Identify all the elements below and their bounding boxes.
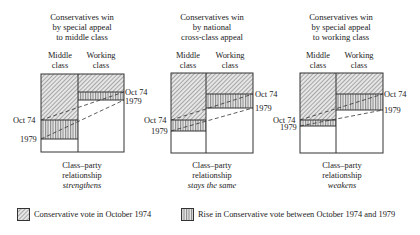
vertical-hatch-swatch-icon [181,208,194,221]
panel-1-work-1979-label: 1979 [125,97,142,106]
panel-2-work-oct74-label: Oct 74 [255,90,278,99]
caption-result: weakens [287,181,397,191]
col-label: Working [210,51,250,61]
col-label: class [81,61,121,71]
panel-1-mid-1979-label: 1979 [20,135,37,144]
col-label: Working [339,51,379,61]
panel-3-chart [300,73,383,153]
panel-3-col-middle: Middle class [298,51,338,70]
col-label: class [298,61,338,71]
caption-line: Class–party [287,161,397,171]
title-line: cross-class appeal [152,32,272,42]
panel-2-work-1979-label: 1979 [255,104,272,113]
legend-oct74-label: Conservative vote in October 1974 [34,210,151,219]
caption-line: relationship [27,171,137,181]
col-label: class [339,61,379,71]
col-label: class [40,61,80,71]
panel-3-mid-1979-label: 1979 [280,123,297,132]
panel-3-col-working: Working class [339,51,379,70]
panel-1-col-working: Working class [81,51,121,70]
panel-3-work-1979-label: 1979 [384,106,401,115]
panel-1-col-middle: Middle class [40,51,80,70]
panel-3-title: Conservatives win by special appeal to w… [281,12,401,42]
caption-line: Class–party [27,161,137,171]
panel-3-caption: Class–party relationship weakens [287,161,397,191]
title-line: by national [152,22,272,32]
diagonal-hatch-swatch-icon [17,208,30,221]
panel-2-mid-1979-label: 1979 [151,127,168,136]
panel-1-work-oct74-label: Oct 74 [125,88,148,97]
title-line: to working class [281,32,401,42]
panel-2-caption: Class–party relationship stays the same [157,161,267,191]
col-label: Middle [298,51,338,61]
col-label: Middle [40,51,80,61]
panel-2-col-working: Working class [210,51,250,70]
panel-2-title: Conservatives win by national cross-clas… [152,12,272,42]
caption-line: relationship [287,171,397,181]
col-label: Working [81,51,121,61]
panel-1-title: Conservatives win by special appeal to m… [22,12,142,42]
panel-2-col-middle: Middle class [168,51,208,70]
legend-rise-label: Rise in Conservative vote between Octobe… [198,210,395,219]
col-label: Middle [168,51,208,61]
title-line: Conservatives win [281,12,401,22]
caption-result: strengthens [27,181,137,191]
col-label: class [168,61,208,71]
title-line: by special appeal [22,22,142,32]
panel-1-caption: Class–party relationship strengthens [27,161,137,191]
panel-1-mid-oct74-label: Oct 74 [13,116,36,125]
caption-line: Class–party [157,161,267,171]
legend-oct74: Conservative vote in October 1974 [17,208,151,221]
col-label: class [210,61,250,71]
title-line: Conservatives win [152,12,272,22]
caption-line: relationship [157,171,267,181]
panel-1-chart [41,74,124,152]
panel-2-mid-oct74-label: Oct 74 [144,116,167,125]
title-line: by special appeal [281,22,401,32]
legend-rise: Rise in Conservative vote between Octobe… [181,208,395,221]
panel-2-chart [171,73,253,153]
caption-result: stays the same [157,181,267,191]
panel-3-work-oct74-label: Oct 74 [384,90,407,99]
title-line: to middle class [22,32,142,42]
title-line: Conservatives win [22,12,142,22]
